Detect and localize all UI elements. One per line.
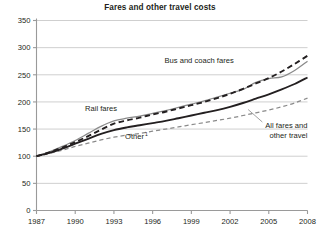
annotation-leader-line [248, 110, 262, 122]
gridlines-group [37, 21, 308, 211]
x-axis-tick-label: 2005 [260, 217, 277, 226]
annotation-all-fares-line2: other travel [270, 131, 308, 140]
annotation-bus-and-coach-fares: Bus and coach fares [164, 56, 233, 65]
series-lines-group [37, 56, 308, 156]
annotation-other: Other [125, 132, 144, 141]
x-axis-tick-label: 1987 [28, 217, 45, 226]
y-axis-tick-label: 250 [18, 71, 31, 80]
x-axis-tick-label: 1993 [105, 217, 122, 226]
y-axis-tick-label: 50 [22, 179, 30, 188]
series-line [37, 78, 308, 157]
y-axis-tick-label: 0 [26, 206, 30, 215]
x-axis-tick-label: 1999 [183, 217, 200, 226]
x-axis-ticks-group: 19871990199319961999200220052008 [28, 211, 316, 226]
annotation-all-fares-line1: All fares and [265, 121, 307, 130]
y-axis-ticks-group: 050100150200250300350 [18, 16, 37, 215]
series-line [37, 61, 308, 156]
y-axis-tick-label: 300 [18, 43, 31, 52]
x-axis-tick-label: 2008 [299, 217, 316, 226]
x-axis-tick-label: 1990 [67, 217, 84, 226]
chart-plot-svg: 050100150200250300350 198719901993199619… [0, 0, 320, 237]
y-axis-tick-label: 150 [18, 125, 31, 134]
annotation-other-footnote: 1 [145, 131, 148, 137]
y-axis-tick-label: 200 [18, 98, 31, 107]
y-axis-tick-label: 100 [18, 152, 31, 161]
x-axis-tick-label: 2002 [222, 217, 239, 226]
series-line [37, 56, 308, 156]
annotation-rail-fares: Rail fares [85, 104, 117, 113]
y-axis-tick-label: 350 [18, 16, 31, 25]
chart-container: Fares and other travel costs 05010015020… [0, 0, 320, 237]
x-axis-tick-label: 1996 [144, 217, 161, 226]
